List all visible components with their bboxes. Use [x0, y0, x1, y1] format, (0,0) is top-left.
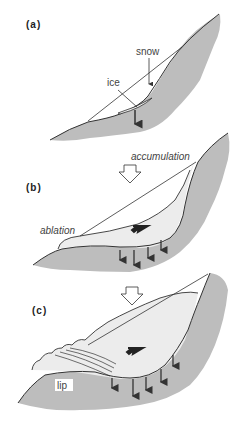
label-ablation: ablation [40, 225, 75, 236]
label-lip: lip [57, 380, 67, 391]
panel-a: (a) snow ice [26, 14, 220, 141]
panel-label-b: (b) [26, 182, 42, 193]
label-snow: snow [136, 46, 160, 57]
label-accumulation: accumulation [131, 151, 190, 162]
transition-arrow-1 [119, 165, 141, 183]
panel-b: (b) accumulation ablation [26, 133, 229, 272]
label-ice: ice [107, 77, 120, 88]
panel-label-c: (c) [32, 305, 47, 316]
transition-arrow-2 [121, 287, 143, 305]
panel-label-a: (a) [26, 19, 41, 30]
ice-pointer [118, 90, 137, 107]
cirque-glacier-diagram: (a) snow ice (b) accumulation ablation [0, 0, 245, 425]
